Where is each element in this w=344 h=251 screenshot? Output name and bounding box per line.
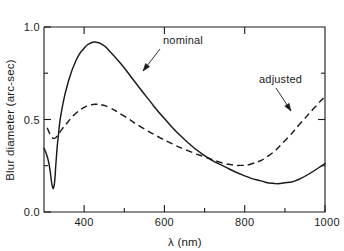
annotation-label-adjusted: adjusted — [259, 73, 302, 85]
blur-diameter-vs-wavelength-chart: 400 600 800 1000 0.0 0.5 1.0 λ (nm) Blur… — [0, 0, 344, 251]
annotation-label-nominal: nominal — [163, 34, 203, 46]
annotation-nominal: nominal — [143, 34, 203, 71]
series-line-adjusted — [47, 96, 325, 165]
annotation-arrowhead-nominal — [143, 63, 150, 71]
y-axis-ticks — [44, 27, 325, 212]
x-axis-ticks — [84, 27, 325, 212]
x-tick-label-600: 600 — [155, 216, 174, 228]
figure-container: 400 600 800 1000 0.0 0.5 1.0 λ (nm) Blur… — [0, 0, 344, 251]
y-tick-labels: 0.0 0.5 1.0 — [24, 21, 40, 218]
annotation-arrowhead-adjusted — [285, 103, 291, 111]
x-tick-label-400: 400 — [74, 216, 93, 228]
y-tick-label-0-5: 0.5 — [24, 114, 40, 126]
y-tick-label-1: 1.0 — [24, 21, 40, 33]
x-tick-label-800: 800 — [235, 216, 254, 228]
x-tick-labels: 400 600 800 1000 — [74, 216, 339, 228]
axis-frame — [44, 27, 325, 212]
y-tick-label-0: 0.0 — [24, 206, 40, 218]
y-axis-title: Blur diameter (arc-sec) — [4, 59, 16, 181]
x-tick-label-1000: 1000 — [314, 216, 340, 228]
x-axis-title: λ (nm) — [168, 236, 202, 248]
series-line-nominal — [44, 42, 325, 189]
annotation-adjusted: adjusted — [259, 73, 302, 111]
